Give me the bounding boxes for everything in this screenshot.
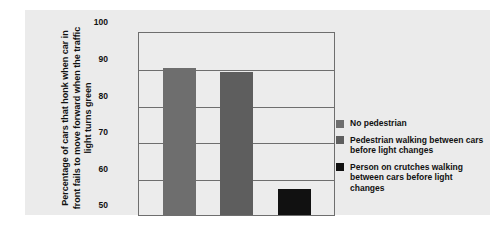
y-tick-50: 50 [84, 201, 108, 210]
legend-swatch-icon [336, 120, 344, 128]
legend-label: Pedestrian walking between cars before l… [350, 135, 484, 156]
legend-item-person-on-crutches: Person on crutches walking between cars … [336, 162, 484, 194]
legend-label: Person on crutches walking between cars … [350, 162, 484, 194]
legend-swatch-icon [336, 136, 344, 144]
legend-label: No pedestrian [350, 118, 407, 129]
y-tick-100: 100 [84, 18, 108, 27]
legend-item-pedestrian-walking: Pedestrian walking between cars before l… [336, 135, 484, 156]
chart-legend: No pedestrian Pedestrian walking between… [336, 118, 484, 199]
y-tick-60: 60 [84, 165, 108, 174]
legend-item-no-pedestrian: No pedestrian [336, 118, 484, 129]
y-tick-70: 70 [84, 128, 108, 137]
y-tick-90: 90 [84, 55, 108, 64]
legend-swatch-icon [336, 163, 344, 171]
y-tick-80: 80 [84, 92, 108, 101]
